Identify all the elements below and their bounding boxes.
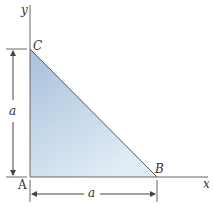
point-c-label: C	[33, 39, 42, 53]
x-axis-label: x	[203, 177, 210, 191]
horizontal-dimension-label: a	[88, 186, 95, 200]
triangle-diagram: y x C A B a a	[0, 0, 213, 207]
y-axis-label: y	[20, 3, 28, 17]
point-b-label: B	[154, 162, 164, 176]
point-a-label: A	[17, 178, 27, 192]
vertical-dimension-label: a	[9, 104, 16, 118]
